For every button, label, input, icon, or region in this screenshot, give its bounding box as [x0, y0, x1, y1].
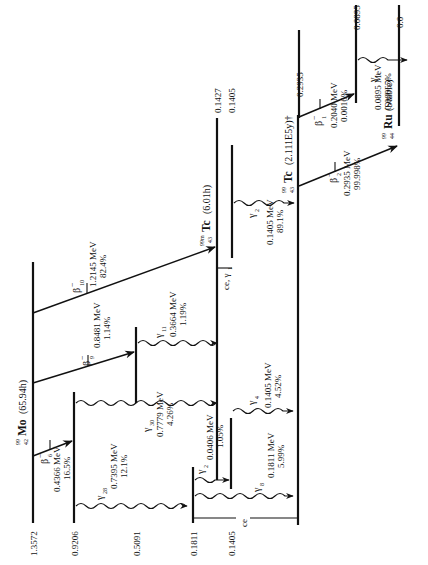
- level-label-0-9206: 0.9206: [70, 531, 80, 556]
- gamma1-energy: 0.0895 MeV: [373, 64, 383, 110]
- svg-text:γ: γ: [94, 495, 105, 501]
- svg-text:43: 43: [207, 237, 213, 243]
- svg-text:β: β: [71, 288, 82, 293]
- beta10-energy: 1.2145 MeV: [88, 241, 98, 287]
- gamma2-0-1405-label: γ 2: [246, 209, 260, 219]
- svg-text:γ: γ: [251, 487, 262, 493]
- gamma2-0-1405-intensity: 89.1%: [275, 209, 285, 233]
- svg-text:−: −: [68, 282, 77, 287]
- gamma30-label: γ 30: [141, 420, 155, 433]
- beta2-intensity: 99.998%: [352, 157, 362, 190]
- svg-text:β: β: [39, 459, 50, 464]
- svg-text:β: β: [81, 361, 92, 366]
- level-label-tc99-0-2935: 0.2935: [295, 72, 305, 97]
- level-label-tc99m-0-1405: 0.1405: [227, 88, 237, 113]
- nuclide-label-mo99: 99 42 Mo (65.94h): [15, 380, 29, 445]
- beta10-label: β − 10: [68, 280, 85, 293]
- svg-text:Tc: Tc: [282, 171, 294, 183]
- gamma11-label: γ 11: [153, 326, 167, 339]
- svg-text:β: β: [328, 178, 339, 183]
- gamma11-arrow: [138, 341, 217, 346]
- svg-text:43: 43: [289, 187, 295, 193]
- gamma28-energy: 0.7395 MeV: [109, 443, 119, 489]
- svg-text:γ: γ: [246, 400, 257, 406]
- level-label-1-3572: 1.3572: [29, 531, 39, 556]
- level-label-ru-0-0: 0.0: [395, 16, 405, 28]
- gamma8-arrow: [195, 494, 293, 499]
- svg-text:−: −: [36, 453, 45, 458]
- beta1-energy: 0.2040 MeV: [329, 82, 339, 128]
- gamma28-arrow: [76, 504, 187, 509]
- beta2-energy: 0.2935 MeV: [342, 150, 352, 196]
- svg-text:44: 44: [389, 133, 395, 139]
- gamma11-intensity: 1.19%: [178, 302, 188, 326]
- gamma1-intensity: 0.00065%: [383, 73, 393, 110]
- svg-text:−: −: [78, 355, 87, 360]
- beta9-intensity: 1.14%: [102, 316, 112, 340]
- svg-text:γ: γ: [246, 213, 257, 219]
- beta1-label: β − 1: [310, 115, 327, 126]
- level-label-0-5091: 0.5091: [132, 531, 142, 556]
- level-label-0-1405-bottom: 0.1405: [227, 531, 237, 556]
- svg-text:8: 8: [259, 483, 265, 486]
- svg-text:−: −: [325, 172, 334, 177]
- beta10-intensity: 82.4%: [98, 254, 108, 278]
- svg-text:99: 99: [281, 187, 287, 193]
- beta6-label: β − 6: [36, 453, 53, 464]
- svg-text:γ: γ: [195, 469, 206, 475]
- gamma2-0-0406-energy: 0.0406 MeV: [205, 414, 215, 460]
- gamma2-0-1405-arrow: [234, 201, 294, 206]
- gamma28-intensity: 12.1%: [119, 454, 129, 478]
- beta9-energy: 0.8481 MeV: [92, 302, 102, 348]
- svg-text:1: 1: [227, 267, 233, 270]
- gamma8-label: γ 8: [251, 483, 265, 493]
- level-label-0-1811: 0.1811: [189, 532, 199, 556]
- beta2-label: β − 2: [325, 172, 342, 183]
- svg-text:2: 2: [254, 209, 260, 212]
- beta6-intensity: 16.5%: [62, 456, 72, 480]
- gamma11-energy: 0.3664 MeV: [168, 291, 178, 337]
- gamma2-0-1405-energy: 0.1405 MeV: [265, 199, 275, 245]
- nuclide-label-tc99: 99 43 Tc (2.111E5y)†: [281, 115, 295, 193]
- gamma30-intensity: 4.26%: [165, 402, 175, 426]
- svg-text:γ: γ: [153, 333, 164, 339]
- gamma30-arrow: [76, 401, 217, 406]
- svg-text:28: 28: [102, 488, 108, 494]
- gamma4-label: γ 4: [246, 396, 260, 406]
- beta6-energy: 0.4366 MeV: [52, 446, 62, 492]
- svg-text:99: 99: [15, 439, 21, 445]
- level-label-ru-0-0895: 0.0895: [352, 5, 362, 30]
- svg-text:2: 2: [203, 465, 209, 468]
- ce-gamma1-label: ce, γ 1: [221, 267, 233, 290]
- svg-text:99m: 99m: [199, 235, 205, 246]
- svg-text:(65.94h): (65.94h): [17, 380, 29, 414]
- svg-text:10: 10: [79, 280, 85, 286]
- beta1-intensity: 0.0016%: [339, 89, 349, 122]
- gamma2-0-0406-intensity: 1.05%: [215, 424, 225, 448]
- svg-text:(2.111E5y)†: (2.111E5y)†: [283, 115, 295, 165]
- gamma30-energy: 0.7779 MeV: [155, 391, 165, 437]
- svg-text:−: −: [310, 115, 319, 120]
- svg-text:β: β: [313, 121, 324, 126]
- gamma8-intensity: 5.99%: [276, 444, 286, 468]
- svg-text:Ru: Ru: [382, 114, 394, 129]
- svg-text:γ: γ: [141, 427, 152, 433]
- svg-text:1: 1: [321, 116, 327, 119]
- ce-label: ce: [239, 519, 249, 527]
- svg-text:99: 99: [381, 133, 387, 139]
- gamma2-0-0406-label: γ 2: [195, 465, 209, 475]
- svg-text:Mo: Mo: [16, 419, 28, 436]
- svg-text:9: 9: [89, 356, 95, 359]
- svg-text:42: 42: [23, 439, 29, 445]
- svg-text:11: 11: [161, 326, 167, 332]
- svg-text:4: 4: [254, 396, 260, 399]
- gamma4-energy: 0.1405 MeV: [263, 362, 273, 408]
- decay-scheme-diagram: 1.3572 0.9206 0.5091 0.1811 0.1405 0.142…: [0, 0, 428, 565]
- gamma4-arrow: [233, 409, 293, 414]
- svg-text:Tc: Tc: [200, 220, 212, 232]
- gamma2-0-0406-arrow: [195, 478, 229, 483]
- gamma28-label: γ 28: [94, 488, 108, 501]
- svg-text:ce, γ: ce, γ: [221, 274, 231, 290]
- gamma4-intensity: 4.52%: [273, 374, 283, 398]
- nuclide-label-tc99m: 99m 43 Tc (6.01h): [199, 185, 213, 246]
